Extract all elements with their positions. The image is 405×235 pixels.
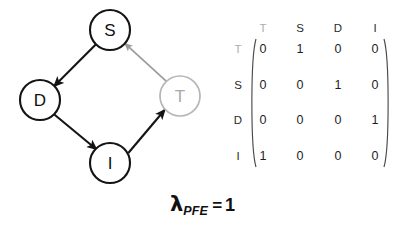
matrix-cell: 1 [372, 113, 379, 127]
caption-lambda-pfe: λPFE=1 [0, 192, 405, 218]
edge-s-to-d [54, 44, 96, 86]
lambda-subscript: PFE [183, 204, 208, 218]
edge-i-to-t [128, 110, 164, 153]
matrix-row: 0 1 0 0 [260, 42, 379, 56]
matrix-right-bracket [384, 39, 388, 167]
matrix-row-label-s: S [234, 79, 242, 91]
matrix-row-labels: T S D I [234, 43, 242, 162]
matrix-cell: 0 [335, 42, 342, 56]
matrix-cell: 1 [335, 78, 342, 92]
matrix-row: 0 0 0 1 [260, 113, 379, 127]
matrix-cell: 0 [297, 149, 304, 163]
matrix-column-headers: T S D I [259, 22, 376, 34]
matrix-col-header-d: D [334, 22, 342, 34]
matrix-cell: 1 [260, 149, 267, 163]
matrix-cell: 0 [260, 78, 267, 92]
lambda-value: 1 [225, 195, 235, 215]
matrix-cell: 0 [260, 113, 267, 127]
adjacency-matrix: T S D I T S D I 0 1 0 0 0 0 1 [234, 22, 388, 167]
figure-root: S D I T T S D I T [0, 0, 405, 235]
matrix-row-label-t: T [234, 43, 241, 55]
matrix-cell: 0 [372, 78, 379, 92]
graph-node-i-label: I [108, 154, 113, 173]
matrix-cell: 1 [297, 42, 304, 56]
matrix-cell: 0 [335, 149, 342, 163]
edge-d-to-i [54, 114, 96, 149]
graph-node-i[interactable]: I [90, 143, 130, 183]
graph-node-t-label: T [175, 87, 185, 106]
graph-edges [54, 44, 167, 153]
graph-node-d[interactable]: D [20, 80, 60, 120]
graph-node-d-label: D [34, 91, 46, 110]
graph-node-t[interactable]: T [160, 76, 200, 116]
matrix-cell: 0 [260, 42, 267, 56]
matrix-cell: 0 [372, 149, 379, 163]
matrix-row: 1 0 0 0 [260, 149, 379, 163]
equals-sign: = [212, 196, 222, 215]
edge-t-to-s [125, 44, 167, 82]
matrix-col-header-t: T [259, 22, 266, 34]
graph-nodes: S D I T [20, 10, 200, 183]
matrix-row: 0 0 1 0 [260, 78, 379, 92]
graph-node-s-label: S [104, 21, 115, 40]
matrix-row-label-d: D [234, 114, 242, 126]
matrix-row-label-i: I [236, 150, 239, 162]
matrix-col-header-i: I [373, 22, 376, 34]
graph-node-s[interactable]: S [90, 10, 130, 50]
matrix-cell: 0 [297, 78, 304, 92]
matrix-left-bracket [252, 39, 256, 167]
matrix-col-header-s: S [296, 22, 304, 34]
lambda-symbol: λ [170, 192, 183, 216]
matrix-cell: 0 [372, 42, 379, 56]
matrix-cell: 0 [297, 113, 304, 127]
matrix-cell: 0 [335, 113, 342, 127]
